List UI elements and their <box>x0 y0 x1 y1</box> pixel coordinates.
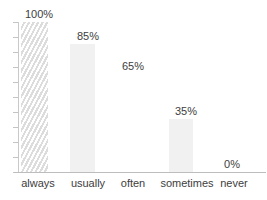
x-axis-line <box>14 172 266 173</box>
category-labels: alwaysusuallyoftensometimesnever <box>0 176 267 196</box>
value-label-never: 0% <box>215 158 249 170</box>
value-label-often: 65% <box>116 60 150 72</box>
bars-layer <box>0 0 267 172</box>
bar-often <box>119 74 144 172</box>
value-label-usually: 85% <box>71 30 105 42</box>
bar-sometimes <box>169 119 193 172</box>
value-label-always: 100% <box>22 8 56 20</box>
bar-chart: 100%85%65%35%0% alwaysusuallyoftensometi… <box>0 0 267 200</box>
bar-usually <box>70 44 95 172</box>
bar-always <box>21 22 48 172</box>
value-label-sometimes: 35% <box>169 105 203 117</box>
category-label-never: never <box>202 176 266 190</box>
